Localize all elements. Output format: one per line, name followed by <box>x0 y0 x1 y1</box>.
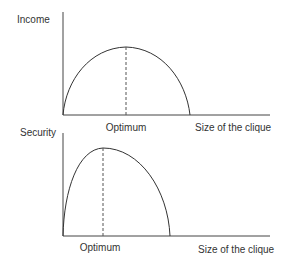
security-axis-label: Security <box>20 127 56 138</box>
security-x-axis-label: Size of the clique <box>198 244 275 255</box>
income-axis-label: Income <box>17 14 50 25</box>
security-panel: Security Optimum Size of the clique <box>20 127 275 255</box>
security-curve <box>63 148 170 236</box>
security-optimum-label: Optimum <box>80 242 121 253</box>
income-panel: Income Optimum Size of the clique <box>17 12 272 133</box>
income-optimum-label: Optimum <box>106 122 147 133</box>
diagram-canvas: Income Optimum Size of the clique Securi… <box>0 0 292 265</box>
income-x-axis-label: Size of the clique <box>195 122 272 133</box>
